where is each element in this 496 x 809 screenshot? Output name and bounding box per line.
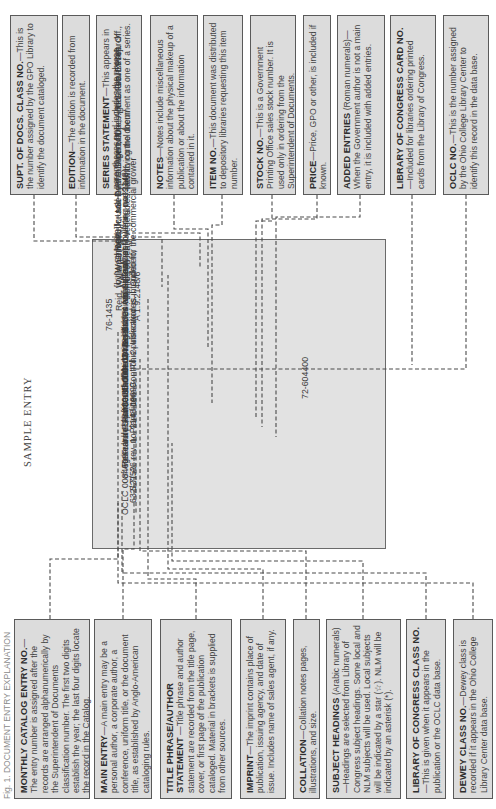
sample-entry-diagram: Fig. 1. DOCUMENT ENTRY EXPLANATION MONTH… [0,0,496,809]
leader-lines [0,0,496,809]
leader-price [262,195,317,427]
leader-imprint [168,275,263,619]
leader-stock [256,195,272,417]
leader-series [118,195,200,269]
leader-notes [174,195,208,349]
leader-collation [140,359,306,619]
leader-added-entries [276,195,360,437]
leader-item [212,195,222,403]
leader-subjects [172,443,363,619]
leader-supt-docs [34,195,126,299]
leader-oclc [136,195,466,513]
leader-monthly-entry [50,331,118,619]
